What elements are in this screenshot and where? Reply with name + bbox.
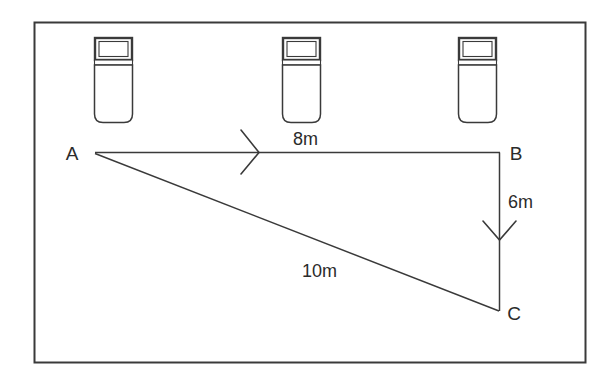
point-label-a: A	[66, 143, 79, 164]
point-label-b: B	[510, 143, 523, 164]
distance-diagram: A B C 8m 6m 10m	[0, 0, 609, 381]
diagram-canvas: A B C 8m 6m 10m	[0, 0, 609, 381]
car-middle-body	[283, 65, 321, 123]
car-right-window-inner	[463, 42, 492, 57]
measure-label-bc: 6m	[508, 192, 533, 212]
car-middle	[283, 38, 321, 123]
car-left-body	[95, 65, 133, 123]
car-right	[459, 38, 497, 123]
car-right-body	[459, 65, 497, 123]
car-left-window-inner	[99, 42, 128, 57]
measure-label-ac: 10m	[302, 261, 337, 281]
measure-label-ab: 8m	[293, 129, 318, 149]
car-left	[95, 38, 133, 123]
car-middle-window-inner	[287, 42, 316, 57]
point-label-c: C	[507, 303, 521, 324]
